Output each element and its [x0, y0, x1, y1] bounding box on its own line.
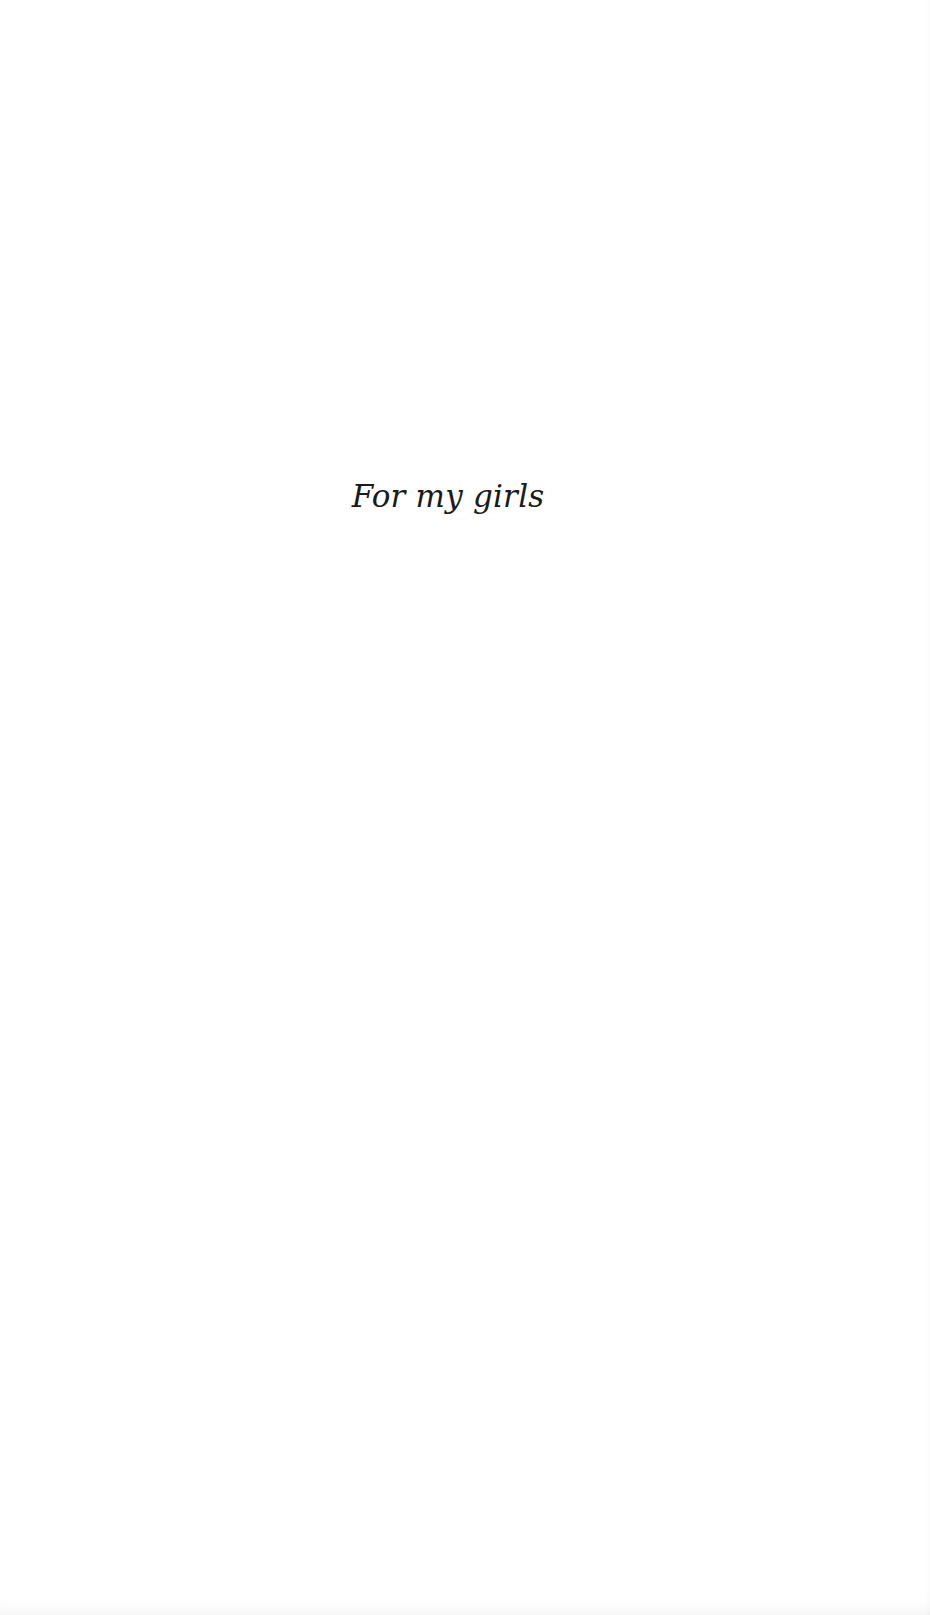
book-page: For my girls [0, 0, 930, 1615]
dedication-text: For my girls [0, 478, 930, 514]
